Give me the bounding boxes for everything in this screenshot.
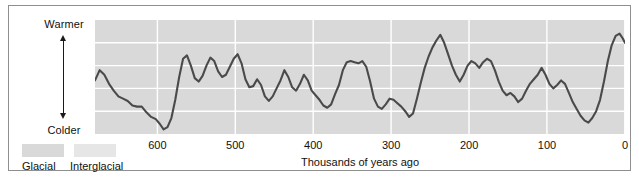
x-axis-tick-labels: 6005004003002001000 bbox=[95, 139, 625, 153]
legend-label-glacial: Glacial bbox=[22, 160, 56, 172]
legend-swatch-glacial bbox=[22, 144, 64, 157]
x-tick-label: 200 bbox=[460, 139, 478, 151]
arrow-head-down-icon bbox=[60, 113, 66, 119]
axis-label-warmer: Warmer bbox=[31, 18, 97, 30]
plot-area bbox=[95, 20, 625, 134]
chart-frame: Warmer Colder bbox=[8, 5, 631, 171]
temperature-line-plot bbox=[95, 20, 625, 134]
x-tick-label: 500 bbox=[226, 139, 244, 151]
x-tick-label: 300 bbox=[382, 139, 400, 151]
temperature-history-chart-figure: Warmer Colder bbox=[0, 0, 639, 180]
x-tick-label: 0 bbox=[622, 139, 628, 151]
temperature-axis-annotation: Warmer Colder bbox=[31, 18, 97, 136]
legend-swatch-interglacial bbox=[74, 144, 116, 157]
axis-label-colder: Colder bbox=[31, 124, 97, 136]
arrow-shaft bbox=[63, 40, 64, 114]
vertical-double-arrow-icon bbox=[62, 35, 64, 119]
x-axis-title: Thousands of years ago bbox=[95, 156, 625, 168]
x-tick-label: 400 bbox=[304, 139, 322, 151]
chart-legend: Glacial Interglacial bbox=[22, 144, 152, 176]
x-tick-label: 100 bbox=[538, 139, 556, 151]
legend-label-interglacial: Interglacial bbox=[70, 160, 123, 172]
